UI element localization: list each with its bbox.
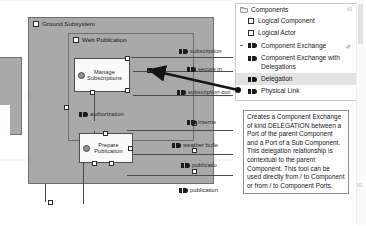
palette-item-logical-actor[interactable]: Logical Actor [236, 27, 356, 39]
port[interactable] [125, 88, 130, 93]
palette-item-label: Logical Component [258, 17, 315, 25]
palette-item-component-exchange[interactable]: Component Exchange ✐ [236, 40, 356, 52]
function-icon [78, 72, 85, 79]
palette-group-header-components[interactable]: Components 60 [236, 4, 356, 15]
component-exchange-icon [248, 77, 257, 82]
edge-label-authorization: authorization [79, 111, 124, 117]
function-manage-subscriptions[interactable]: Manage Subscriptions [74, 58, 130, 92]
component-exchange-icon [248, 43, 257, 48]
pin-icon[interactable]: ✐ [346, 43, 351, 51]
folder-icon [240, 7, 248, 13]
tooltip-text: Creates a Component Exchange of kind DEL… [247, 113, 345, 189]
component-exchange-icon [79, 112, 88, 117]
connector-line [127, 175, 235, 176]
component-exchange-icon [248, 56, 257, 61]
package-ground-subsystem-label: Ground Subsystem [42, 20, 95, 27]
connector-line [83, 158, 84, 204]
component-exchange-icon [179, 49, 188, 54]
port[interactable] [92, 161, 97, 166]
palette-scroll-badge: 60 [357, 183, 362, 188]
port[interactable] [103, 131, 108, 136]
palette-item-label: Component Exchange [261, 42, 326, 50]
palette-group-label: Components [251, 6, 288, 13]
port[interactable] [128, 146, 133, 151]
function-prepare-publication-label: Prepare Publication [89, 142, 122, 155]
edge-label-weather-bulletin: weather bulle [172, 142, 218, 148]
component-exchange-icon [187, 120, 196, 125]
palette-scrollbar-thumb[interactable] [358, 4, 363, 44]
edge-label-subscription: subscription [179, 48, 221, 54]
palette-item-label: Delegation [261, 75, 293, 83]
expand-dash-icon [240, 45, 243, 46]
palette-group-badge: 60 [347, 7, 352, 12]
edge-label-publication: publication [179, 187, 218, 193]
palette-item-label: Physical Link [261, 87, 299, 95]
palette-panel[interactable]: Components 60 Logical Component Logical … [233, 0, 366, 226]
edge-label-subscription-con: subscription con [177, 89, 231, 95]
function-icon [83, 145, 90, 152]
port[interactable] [90, 90, 95, 95]
checkbox-icon [248, 18, 254, 24]
port[interactable] [125, 56, 130, 61]
component-exchange-icon [187, 67, 196, 72]
screenshot-root: Ground Subsystem Web Publication Manage … [0, 0, 366, 226]
palette-item-delegation[interactable]: Delegation [236, 73, 356, 85]
checkbox-icon [248, 30, 254, 36]
package-icon [73, 37, 79, 43]
port[interactable] [147, 68, 152, 73]
package-ground-subsystem-header: Ground Subsystem [33, 20, 95, 27]
package-web-publication-label: Web Publication [82, 36, 127, 43]
connector-line [127, 130, 235, 131]
connector-line [45, 184, 46, 202]
component-exchange-icon [248, 89, 257, 94]
tooltip-delegation: Creates a Component Exchange of kind DEL… [243, 110, 349, 194]
component-exchange-icon [172, 143, 181, 148]
edge-label-secure-in: secure in [187, 66, 222, 72]
palette-item-physical-link[interactable]: Physical Link [236, 85, 356, 97]
package-icon [33, 21, 39, 27]
diagram-canvas[interactable]: Ground Subsystem Web Publication Manage … [0, 0, 236, 226]
package-web-publication-header: Web Publication [73, 36, 127, 43]
palette-item-label: Component Exchange with Delegations [261, 54, 352, 71]
edge-label-interne: interne [187, 119, 216, 125]
connector-line [133, 95, 235, 96]
function-manage-subscriptions-label: Manage Subscriptions [82, 69, 122, 82]
component-exchange-icon [181, 163, 190, 168]
port[interactable] [192, 169, 197, 174]
palette-item-component-exchange-with-delegations[interactable]: Component Exchange with Delegations [236, 52, 356, 73]
connector-line [131, 57, 235, 58]
palette-scrollbar[interactable] [356, 2, 364, 224]
component-exchange-icon [177, 90, 186, 95]
port[interactable] [48, 200, 53, 205]
edge-label-publicatio: publicatio [181, 162, 217, 168]
port[interactable] [64, 105, 69, 110]
palette-item-label: Logical Actor [258, 29, 296, 37]
palette-item-logical-component[interactable]: Logical Component [236, 15, 356, 27]
port[interactable] [192, 148, 197, 153]
function-prepare-publication[interactable]: Prepare Publication [79, 133, 133, 163]
connector-line [127, 154, 235, 155]
port[interactable] [109, 161, 114, 166]
package-left-partial-body [0, 105, 10, 135]
palette-components-group[interactable]: Components 60 Logical Component Logical … [235, 3, 357, 101]
component-exchange-icon [179, 188, 188, 193]
